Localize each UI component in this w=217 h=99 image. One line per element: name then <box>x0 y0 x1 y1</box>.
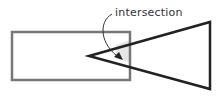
diagram-canvas <box>0 0 217 99</box>
rectangle-shape <box>12 32 130 80</box>
intersection-label: intersection <box>115 6 183 19</box>
intersection-region <box>116 40 130 62</box>
